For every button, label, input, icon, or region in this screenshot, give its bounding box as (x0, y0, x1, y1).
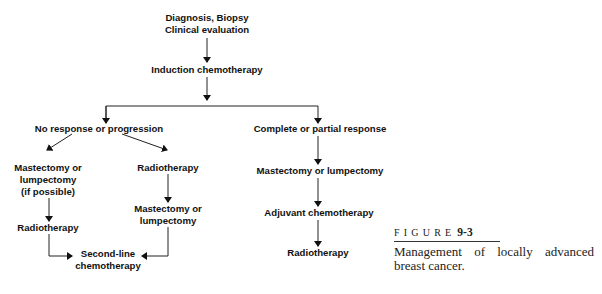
node-text: Induction chemotherapy (151, 64, 262, 76)
figure-caption: FIGURE9-3 Management of locally advanced… (394, 226, 594, 273)
flowchart: Diagnosis, Biopsy Clinical evaluation In… (0, 0, 602, 294)
figure-number: 9-3 (457, 226, 472, 238)
node-text: Mastectomy or (134, 203, 202, 215)
figure-label: FIGURE9-3 (394, 226, 500, 242)
node-text: Complete or partial response (254, 123, 387, 135)
node-second-line-chemotherapy: Second-line chemotherapy (75, 248, 141, 272)
node-no-response: No response or progression (35, 123, 163, 135)
node-text: No response or progression (35, 123, 163, 135)
node-text: chemotherapy (75, 260, 141, 272)
node-text: Radiotherapy (17, 222, 78, 234)
node-text: Adjuvant chemotherapy (264, 207, 373, 219)
node-diagnosis: Diagnosis, Biopsy Clinical evaluation (165, 12, 249, 36)
node-text: Radiotherapy (287, 247, 348, 259)
node-left-radiotherapy: Radiotherapy (17, 222, 78, 234)
figure-label-text: FIGURE (394, 227, 455, 238)
node-text: Mastectomy or lumpectomy (257, 165, 384, 177)
node-text: Clinical evaluation (165, 24, 249, 36)
node-mid-radiotherapy: Radiotherapy (137, 162, 198, 174)
node-right-mastectomy: Mastectomy or lumpectomy (257, 165, 384, 177)
figure-caption-text: Management of locally advanced breast ca… (394, 245, 594, 273)
node-right-radiotherapy: Radiotherapy (287, 247, 348, 259)
node-induction-chemotherapy: Induction chemotherapy (151, 64, 262, 76)
node-left-mastectomy: Mastectomy or lumpectomy (if possible) (14, 162, 82, 198)
node-text: Radiotherapy (137, 162, 198, 174)
node-text: Second-line (75, 248, 141, 260)
node-text: (if possible) (14, 186, 82, 198)
node-adjuvant-chemotherapy: Adjuvant chemotherapy (264, 207, 373, 219)
node-complete-partial-response: Complete or partial response (254, 123, 387, 135)
node-text: lumpectomy (134, 215, 202, 227)
node-text: Mastectomy or (14, 162, 82, 174)
node-mid-mastectomy: Mastectomy or lumpectomy (134, 203, 202, 227)
node-text: lumpectomy (14, 174, 82, 186)
node-text: Diagnosis, Biopsy (165, 12, 249, 24)
